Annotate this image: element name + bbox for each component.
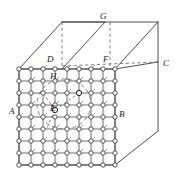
- edge-top-left-slant: [19, 22, 62, 69]
- lattice-node: [41, 163, 45, 167]
- lattice-node: [77, 67, 81, 71]
- lattice-node: [77, 79, 81, 83]
- lattice-node: [89, 67, 93, 71]
- edge-interior-slant: [62, 22, 105, 69]
- lattice-node: [113, 127, 117, 131]
- edge-bottom-right-slant: [115, 131, 158, 165]
- lattice-node: [113, 163, 117, 167]
- lattice-node: [77, 103, 81, 107]
- dislocation-core-node-secondary: [76, 90, 81, 95]
- lattice-node: [41, 151, 45, 155]
- lattice-node: [29, 67, 33, 71]
- lattice-node: [17, 151, 21, 155]
- lattice-node: [89, 91, 93, 95]
- lattice-node: [53, 91, 57, 95]
- lattice-node: [17, 163, 21, 167]
- lattice-node: [113, 91, 117, 95]
- lattice-node: [65, 103, 69, 107]
- vertex-label-C: C: [163, 59, 169, 68]
- figure-root: A B C D E F G H: [0, 0, 178, 191]
- lattice-node: [53, 151, 57, 155]
- lattice-node: [77, 115, 81, 119]
- lattice-node: [77, 127, 81, 131]
- lattice-node: [65, 127, 69, 131]
- lattice-node: [53, 115, 57, 119]
- lattice-node: [53, 163, 57, 167]
- lattice-node: [89, 163, 93, 167]
- lattice-node: [113, 103, 117, 107]
- lattice-node: [17, 91, 21, 95]
- lattice-node: [89, 139, 93, 143]
- lattice-node: [41, 67, 45, 71]
- lattice-node: [41, 103, 45, 107]
- cube-hidden-edges: [62, 22, 158, 66]
- lattice-node: [77, 151, 81, 155]
- vertex-label-G: G: [100, 12, 107, 21]
- vertex-label-H: H: [50, 72, 57, 81]
- lattice-node: [101, 91, 105, 95]
- lattice-node: [89, 79, 93, 83]
- lattice-node: [65, 115, 69, 119]
- lattice-node: [29, 163, 33, 167]
- lattice-node: [41, 115, 45, 119]
- lattice-node: [77, 163, 81, 167]
- lattice-node: [17, 139, 21, 143]
- lattice-node: [41, 79, 45, 83]
- lattice-node: [89, 151, 93, 155]
- lattice-node: [17, 127, 21, 131]
- lattice-node: [101, 151, 105, 155]
- lattice-node: [17, 79, 21, 83]
- edge-right-face-top: [115, 62, 158, 69]
- lattice-node: [41, 127, 45, 131]
- lattice-node: [113, 139, 117, 143]
- lattice-node: [29, 91, 33, 95]
- lattice-node: [89, 103, 93, 107]
- lattice-node: [65, 79, 69, 83]
- lattice-node: [77, 139, 81, 143]
- lattice-node: [113, 79, 117, 83]
- vertex-label-B: B: [119, 110, 125, 119]
- lattice-node: [29, 103, 33, 107]
- lattice-node: [101, 139, 105, 143]
- lattice-node: [17, 103, 21, 107]
- lattice-node: [101, 79, 105, 83]
- lattice-node: [29, 79, 33, 83]
- lattice-node: [65, 67, 69, 71]
- lattice-node: [53, 127, 57, 131]
- lattice-node: [29, 151, 33, 155]
- vertex-label-F: F: [103, 55, 109, 64]
- lattice-node: [113, 151, 117, 155]
- lattice-atom-nodes: [17, 67, 117, 167]
- lattice-node: [17, 115, 21, 119]
- lattice-node: [53, 139, 57, 143]
- defect-distortion-lines: [43, 93, 79, 128]
- lattice-node: [101, 103, 105, 107]
- lattice-node: [101, 115, 105, 119]
- lattice-node: [29, 139, 33, 143]
- lattice-node: [101, 67, 105, 71]
- lattice-node: [89, 127, 93, 131]
- lattice-node: [65, 139, 69, 143]
- lattice-node: [101, 163, 105, 167]
- vertex-label-E: E: [50, 104, 56, 113]
- lattice-node: [41, 91, 45, 95]
- lattice-node: [113, 115, 117, 119]
- vertex-label-A: A: [9, 107, 15, 116]
- lattice-node: [89, 115, 93, 119]
- lattice-node: [65, 91, 69, 95]
- lattice-node: [113, 67, 117, 71]
- lattice-node: [17, 67, 21, 71]
- lattice-node: [101, 127, 105, 131]
- vertex-label-D: D: [47, 55, 54, 64]
- lattice-node: [65, 151, 69, 155]
- lattice-node: [29, 127, 33, 131]
- lattice-node: [65, 163, 69, 167]
- lattice-diagram-svg: [0, 0, 178, 191]
- lattice-node: [41, 139, 45, 143]
- lattice-node: [29, 115, 33, 119]
